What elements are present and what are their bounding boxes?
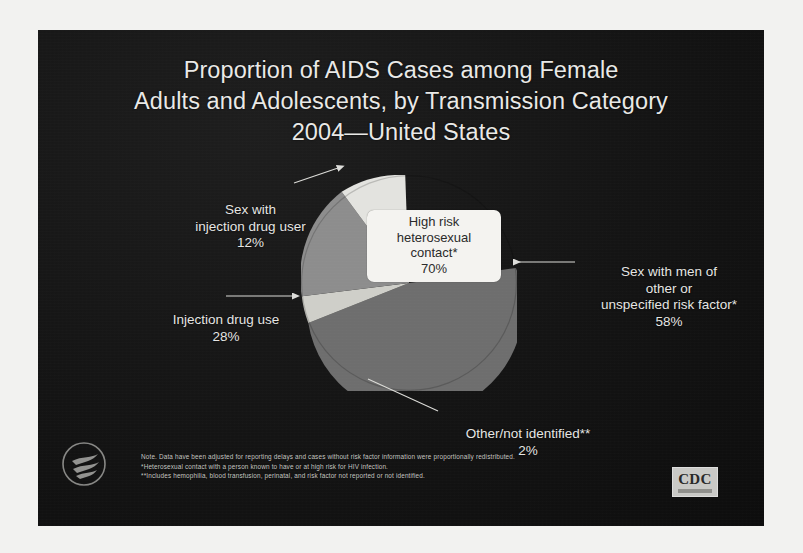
slide-title: Proportion of AIDS Cases among Female Ad… [38, 55, 764, 148]
center-callout-high-risk-heterosexual: High risk heterosexual contact* 70% [367, 210, 501, 282]
label-smo-value: 58% [554, 314, 764, 331]
presentation-slide: Proportion of AIDS Cases among Female Ad… [38, 30, 764, 526]
callout-line-1: High risk [373, 214, 495, 230]
hhs-seal-icon [60, 440, 108, 488]
label-idu-value: 28% [136, 329, 316, 346]
screenshot-canvas: Proportion of AIDS Cases among Female Ad… [0, 0, 803, 553]
cdc-logo: CDC [672, 467, 718, 497]
title-line-3: 2004—United States [38, 117, 764, 148]
callout-line-2: heterosexual [373, 230, 495, 246]
label-smo-line-2: other or [554, 281, 764, 298]
label-sex-with-injection-drug-user: Sex with injection drug user 12% [158, 202, 343, 252]
cdc-logo-text: CDC [678, 472, 712, 487]
footnote-single-asterisk: *Heterosexual contact with a person know… [141, 462, 661, 472]
footnote-note: Note. Data have been adjusted for report… [141, 452, 661, 462]
footnotes: Note. Data have been adjusted for report… [141, 452, 661, 481]
label-idu-line-1: Injection drug use [136, 312, 316, 329]
label-sidu-line-2: injection drug user [158, 219, 343, 236]
title-line-1: Proportion of AIDS Cases among Female [38, 55, 764, 86]
label-sidu-value: 12% [158, 235, 343, 252]
label-smo-line-1: Sex with men of [554, 264, 764, 281]
label-sex-with-men-other: Sex with men of other or unspecified ris… [554, 264, 764, 330]
label-sidu-line-1: Sex with [158, 202, 343, 219]
cdc-logo-underline [678, 489, 712, 493]
label-smo-line-3: unspecified risk factor* [554, 297, 764, 314]
label-injection-drug-use: Injection drug use 28% [136, 312, 316, 345]
callout-value: 70% [373, 261, 495, 277]
callout-line-3: contact* [373, 245, 495, 261]
title-line-2: Adults and Adolescents, by Transmission … [38, 86, 764, 117]
label-other-line-1: Other/not identified** [420, 426, 636, 443]
footnote-double-asterisk: **Includes hemophilia, blood transfusion… [141, 471, 661, 481]
